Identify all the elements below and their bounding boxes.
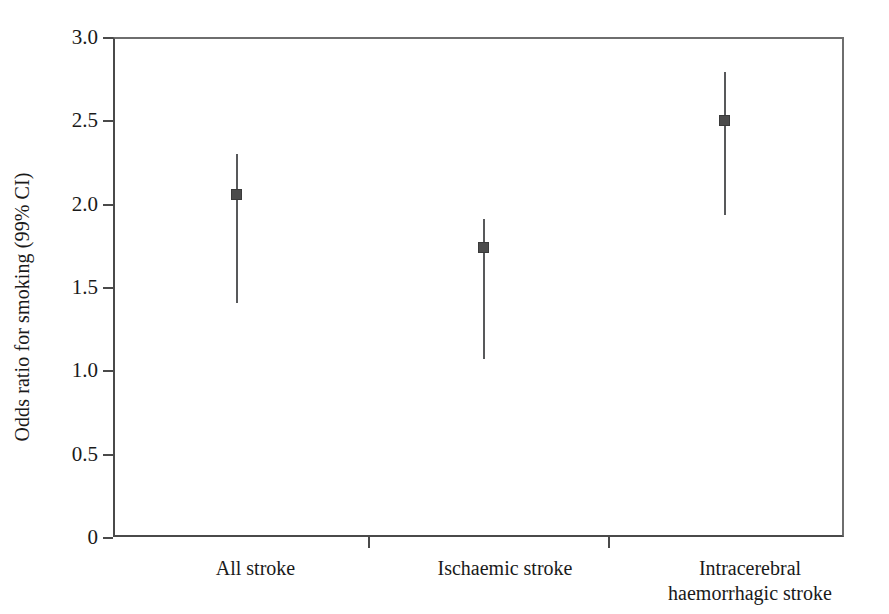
data-marker-ischaemic-stroke — [478, 242, 489, 253]
y-tick-mark-2.0 — [103, 204, 113, 206]
error-bar-ischaemic-stroke — [483, 219, 485, 359]
x-category-label-intracerebral-line2: haemorrhagic stroke — [625, 581, 875, 606]
x-tick-mark-2 — [608, 537, 610, 548]
y-tick-label-3.0: 3.0 — [40, 27, 98, 48]
data-marker-intracerebral-haemorrhagic-stroke — [719, 115, 730, 126]
x-tick-mark-1 — [368, 537, 370, 548]
y-tick-label-1.5: 1.5 — [40, 277, 98, 298]
y-tick-mark-1.0 — [103, 370, 113, 372]
x-category-label-ischaemic-stroke-line1: Ischaemic stroke — [405, 556, 605, 581]
y-tick-mark-1.5 — [103, 287, 113, 289]
y-tick-label-2.5: 2.5 — [40, 110, 98, 131]
x-category-label-ischaemic-stroke: Ischaemic stroke — [405, 556, 605, 581]
error-bar-intracerebral-haemorrhagic-stroke — [724, 72, 726, 215]
data-marker-all-stroke — [231, 189, 242, 200]
y-tick-label-0.5: 0.5 — [40, 444, 98, 465]
x-category-label-intracerebral-haemorrhagic-stroke: Intracerebral haemorrhagic stroke — [625, 556, 875, 606]
plot-area — [113, 37, 844, 537]
y-tick-label-1.0: 1.0 — [40, 360, 98, 381]
y-axis-title: Odds ratio for smoking (99% CI) — [0, 0, 44, 614]
figure-canvas: Odds ratio for smoking (99% CI) 3.0 2.5 … — [0, 0, 889, 614]
y-tick-mark-3.0 — [103, 37, 113, 39]
y-tick-label-0: 0 — [40, 527, 98, 548]
y-tick-label-2.0: 2.0 — [40, 194, 98, 215]
x-category-label-all-stroke: All stroke — [173, 556, 338, 581]
error-bar-all-stroke — [236, 154, 238, 303]
x-category-label-intracerebral-line1: Intracerebral — [625, 556, 875, 581]
x-category-label-all-stroke-line1: All stroke — [173, 556, 338, 581]
y-tick-mark-0 — [103, 537, 113, 539]
y-tick-mark-0.5 — [103, 454, 113, 456]
y-tick-mark-2.5 — [103, 120, 113, 122]
